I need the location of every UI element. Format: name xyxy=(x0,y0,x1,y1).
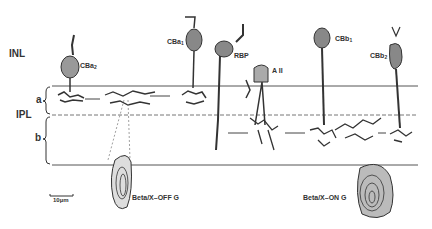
scale-bar-label: 10µm xyxy=(53,197,68,203)
cbb1-label: CBb1 xyxy=(335,35,352,43)
cbb2-cell xyxy=(390,27,413,142)
inl-label: INL xyxy=(9,49,25,59)
cba1-label: CBa1 xyxy=(167,38,184,46)
rbp-cell xyxy=(215,24,243,150)
beta-off-label: Beta/X–OFF G xyxy=(132,194,179,201)
beta-on-label: Beta/X–ON G xyxy=(303,194,347,201)
rbp-label: RBP xyxy=(234,52,249,59)
neuron-drawing xyxy=(0,0,432,229)
off-arrows xyxy=(85,96,170,99)
cbb1-cell xyxy=(310,28,336,146)
cba2-label: CBa2 xyxy=(80,62,97,70)
retina-circuit-diagram: INL IPL a b CBa2 CBa1 RBP A II CBb1 CBb2… xyxy=(0,0,432,229)
beta-off-soma xyxy=(108,100,132,209)
aii-label: A II xyxy=(272,67,283,74)
sublamina-a-label: a xyxy=(36,95,42,105)
ipl-label: IPL xyxy=(16,110,32,120)
sublamina-b-label: b xyxy=(35,133,41,143)
brace-b xyxy=(43,117,50,164)
scale-bar-line xyxy=(50,194,73,196)
brace-a xyxy=(43,87,50,114)
on-ganglion-dendrites xyxy=(335,118,381,140)
cba1-cell xyxy=(182,17,206,104)
aii-cell xyxy=(246,65,278,150)
cbb2-label: CBb2 xyxy=(370,52,387,60)
off-ganglion-dendrites xyxy=(105,91,155,105)
beta-on-soma xyxy=(357,164,393,217)
